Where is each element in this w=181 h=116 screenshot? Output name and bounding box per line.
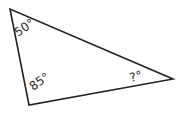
angle-label-right: ?° bbox=[128, 68, 144, 85]
angle-label-bottom-left: 85° bbox=[27, 70, 52, 94]
triangle-svg: 50° 85° ?° bbox=[0, 0, 181, 116]
triangle-diagram: 50° 85° ?° bbox=[0, 0, 181, 116]
